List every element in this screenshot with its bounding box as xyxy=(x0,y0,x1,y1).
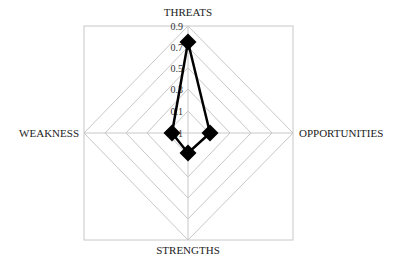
tick-label: 0.7 xyxy=(171,42,184,53)
axis-label-threats: THREATS xyxy=(164,6,212,18)
tick-label: 0.5 xyxy=(171,63,184,74)
tick-label: 0.9 xyxy=(171,21,184,32)
axis-label-strengths: STRENGTHS xyxy=(156,244,220,256)
grid xyxy=(84,26,293,240)
axis-label-weakness: WEAKNESS xyxy=(19,127,79,139)
axis-label-opportunities: OPPORTUNITIES xyxy=(299,127,383,139)
radar-chart: 0.9 0.7 0.5 0.3 0.1 -0.1 THREATS OPPORTU… xyxy=(0,0,403,265)
